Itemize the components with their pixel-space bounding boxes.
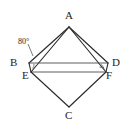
segment-f-c (69, 72, 106, 107)
vertex-label-f: F (106, 70, 112, 81)
segment-a-b (29, 27, 69, 63)
segment-e-c (31, 72, 69, 107)
vertex-label-b: B (10, 57, 17, 68)
angle-label-80: 80° (18, 38, 29, 46)
segment-a-f (69, 27, 106, 72)
vertex-label-e: E (22, 70, 29, 81)
vertex-label-c: C (65, 110, 72, 121)
segment-a-e (31, 27, 69, 72)
vertex-label-a: A (65, 10, 73, 21)
vertex-label-d: D (112, 57, 120, 68)
geometry-figure: A B C D E F 80° (0, 0, 134, 130)
segment-a-d (69, 27, 108, 63)
arc-at-b-icon (33, 64, 35, 68)
segment-b-e (29, 63, 31, 72)
